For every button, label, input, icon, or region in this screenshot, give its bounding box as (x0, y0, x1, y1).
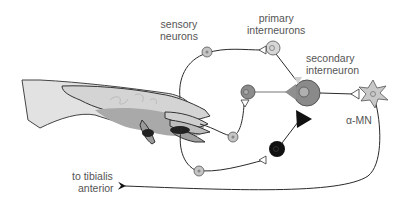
sensory-neuron-3 (194, 166, 204, 176)
primary-interneuron-top (266, 41, 280, 55)
label-line: neurons (160, 30, 198, 42)
spinal-reflex-circuit-diagram (0, 0, 401, 216)
label-line: primary (247, 12, 305, 24)
inhibitory-synapse-black (296, 110, 312, 128)
claw-1 (142, 129, 154, 137)
label-line: to tibialis (72, 170, 114, 182)
primary-interneuron-black (269, 141, 285, 157)
label-sensory-neurons: sensory neurons (160, 18, 198, 42)
secondary-to-mn-fiber (320, 93, 353, 94)
label-line: sensory (160, 18, 198, 30)
label-line: interneurons (247, 24, 305, 36)
black-neuron-to-secondary-fiber (282, 122, 298, 143)
label-line: anterior (72, 182, 114, 194)
sensory-neuron-2 (228, 132, 238, 142)
excitatory-synapse-mn (351, 89, 359, 99)
claw-2 (170, 126, 190, 134)
label-line: secondary (306, 52, 359, 64)
label-alpha-mn: α-MN (346, 114, 372, 126)
primary-interneuron-middle (241, 85, 255, 99)
paw-illustration (22, 80, 210, 144)
alpha-motor-neuron (359, 80, 388, 108)
excitatory-synapse-middle (241, 100, 249, 107)
label-line: interneuron (306, 64, 359, 76)
excitatory-synapse-black (259, 156, 266, 164)
secondary-interneuron (294, 80, 320, 106)
label-secondary-interneuron: secondary interneuron (306, 52, 359, 76)
label-to-tibialis-anterior: to tibialis anterior (72, 170, 114, 194)
primary-to-secondary-fiber (276, 54, 296, 80)
label-line: α-MN (346, 114, 372, 126)
excitatory-synapse-primary (259, 46, 266, 54)
label-primary-interneurons: primary interneurons (247, 12, 305, 36)
sensory-neuron-1 (202, 47, 212, 57)
gray-synapse-secondary (285, 84, 296, 100)
